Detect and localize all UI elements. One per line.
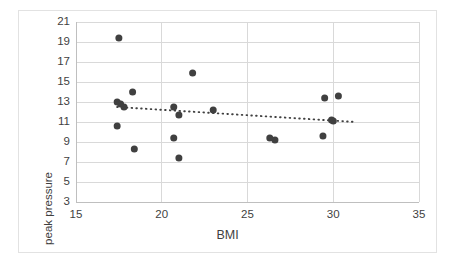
data-point xyxy=(115,35,122,42)
data-point xyxy=(170,104,177,111)
x-axis-tick-label: 30 xyxy=(316,209,350,221)
x-axis-tick-label: 35 xyxy=(402,209,436,221)
x-axis-tick-label: 25 xyxy=(231,209,265,221)
y-axis-tick-label: 11 xyxy=(44,116,70,128)
data-point xyxy=(271,137,278,144)
data-point xyxy=(330,118,337,125)
y-axis-tick-label: 19 xyxy=(44,36,70,48)
x-axis-title: BMI xyxy=(0,228,455,242)
x-axis-tick-label: 15 xyxy=(59,209,93,221)
data-point xyxy=(170,135,177,142)
data-point xyxy=(189,70,196,77)
y-axis-tick-label: 21 xyxy=(44,16,70,28)
data-point xyxy=(129,89,136,96)
y-axis-tick-label: 3 xyxy=(44,196,70,208)
y-axis-tick-label: 7 xyxy=(44,156,70,168)
data-point xyxy=(321,95,328,102)
data-point xyxy=(319,133,326,140)
data-point xyxy=(175,155,182,162)
y-axis-tick-label: 13 xyxy=(44,96,70,108)
y-axis-tick-label: 15 xyxy=(44,76,70,88)
data-point xyxy=(121,104,128,111)
x-axis-tick-label: 20 xyxy=(145,209,179,221)
data-point xyxy=(175,112,182,119)
y-axis-tick-label: 17 xyxy=(44,56,70,68)
data-point xyxy=(335,93,342,100)
data-point xyxy=(131,146,138,153)
data-point xyxy=(210,107,217,114)
y-axis-tick-label: 5 xyxy=(44,176,70,188)
y-axis-tick-label: 9 xyxy=(44,136,70,148)
data-point xyxy=(114,123,121,130)
